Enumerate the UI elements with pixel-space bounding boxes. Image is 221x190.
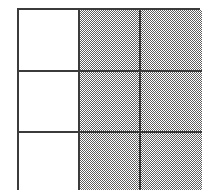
- grid-cell-r2c2: [80, 72, 141, 133]
- grid-cell-r2c1: [19, 72, 80, 133]
- grid-cell-r2c3: [141, 72, 202, 133]
- grid-cell-r1c2: [80, 10, 141, 72]
- grid-figure: [17, 8, 200, 190]
- grid-cell-r1c3: [141, 10, 202, 72]
- grid-cell-r3c3: [141, 133, 202, 190]
- grid-cell-r1c1: [19, 10, 80, 72]
- grid-cell-r3c2: [80, 133, 141, 190]
- figure-canvas: [0, 0, 221, 190]
- grid-cell-r3c1: [19, 133, 80, 190]
